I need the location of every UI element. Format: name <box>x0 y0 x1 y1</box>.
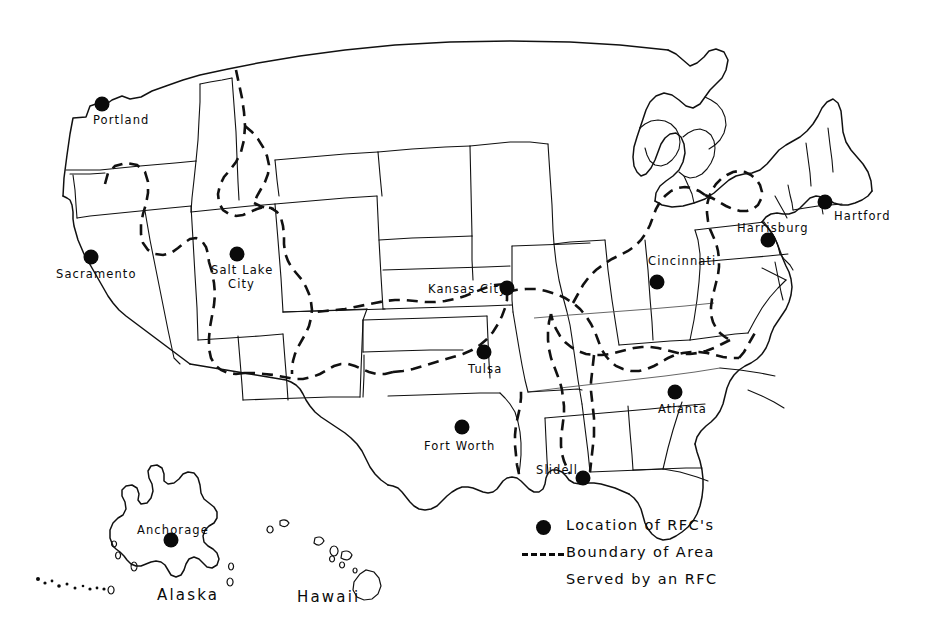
city-label: Cincinnati <box>648 255 716 268</box>
city-dot <box>455 420 470 435</box>
city-label: Salt Lake <box>211 264 273 277</box>
legend-boundary-label-line1: Boundary of Area <box>566 543 715 562</box>
legend-boundary-label-line2: Served by an RFC <box>566 570 717 589</box>
state-boundaries-east <box>470 128 842 481</box>
filled-circle-icon <box>520 518 566 536</box>
rfc-map: PortlandSacramentoSalt LakeCityKansas Ci… <box>0 0 928 637</box>
region-label: Alaska <box>157 586 219 604</box>
city-label: Harrisburg <box>737 222 809 235</box>
city-dot <box>230 247 245 262</box>
city-label: City <box>228 278 255 291</box>
city-label: Atlanta <box>658 403 707 416</box>
legend-row-location: Location of RFC's <box>520 516 717 543</box>
map-legend: Location of RFC's Boundary of Area Serve… <box>520 516 717 597</box>
city-dot <box>668 385 683 400</box>
city-dot <box>650 275 665 290</box>
legend-location-label: Location of RFC's <box>566 516 714 535</box>
city-label: Sacramento <box>56 268 137 281</box>
city-label: Portland <box>93 114 149 127</box>
legend-row-boundary-cont: Served by an RFC <box>520 570 717 597</box>
city-label: Kansas City <box>428 283 507 296</box>
city-label: Tulsa <box>468 363 502 376</box>
city-dot <box>477 345 492 360</box>
city-dot <box>818 195 833 210</box>
city-label: Anchorage <box>137 524 209 537</box>
region-label: Hawaii <box>297 588 360 606</box>
legend-row-boundary: Boundary of Area <box>520 543 717 570</box>
city-dot <box>84 250 99 265</box>
city-dot <box>95 97 110 112</box>
dashed-line-icon <box>520 545 566 563</box>
map-svg <box>0 0 928 637</box>
city-label: Fort Worth <box>424 440 495 453</box>
city-label: Hartford <box>834 210 891 223</box>
city-label: Slidell <box>536 464 578 477</box>
